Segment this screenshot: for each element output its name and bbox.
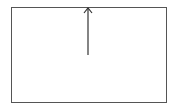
rectangle-box — [12, 8, 167, 103]
diagram-svg — [0, 0, 174, 108]
diagram-canvas — [0, 0, 174, 108]
